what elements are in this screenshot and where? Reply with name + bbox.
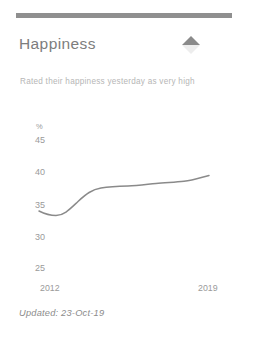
happiness-indicator-card: Happiness Rated their happiness yesterda… — [0, 0, 266, 339]
card-title: Happiness — [19, 33, 96, 55]
x-tick-label-start: 2012 — [40, 283, 60, 293]
x-tick-label-end: 2019 — [198, 283, 218, 293]
y-tick-label-45: 45 — [35, 135, 45, 145]
series-line-very-high-happiness — [39, 176, 209, 216]
line-chart: % 45 40 35 30 25 2012 2019 — [0, 110, 266, 300]
card-top-divider — [16, 13, 232, 18]
y-tick-label-30: 30 — [35, 232, 45, 242]
y-tick-label-40: 40 — [35, 167, 45, 177]
updated-timestamp: Updated: 23-Oct-19 — [19, 308, 104, 318]
card-header: Happiness — [0, 33, 266, 63]
card-subtitle: Rated their happiness yesterday as very … — [20, 76, 248, 87]
y-tick-label-35: 35 — [35, 200, 45, 210]
y-axis-unit-label: % — [36, 122, 43, 131]
y-tick-label-25: 25 — [35, 263, 45, 273]
triangle-up-icon — [178, 32, 204, 58]
